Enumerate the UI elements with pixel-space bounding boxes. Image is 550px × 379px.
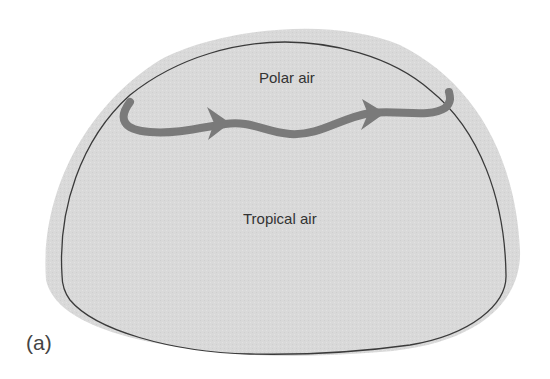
polar-air-label: Polar air xyxy=(259,69,315,86)
hemisphere-diagram xyxy=(0,0,550,379)
panel-label: (a) xyxy=(26,331,52,355)
tropical-air-label: Tropical air xyxy=(243,210,317,227)
